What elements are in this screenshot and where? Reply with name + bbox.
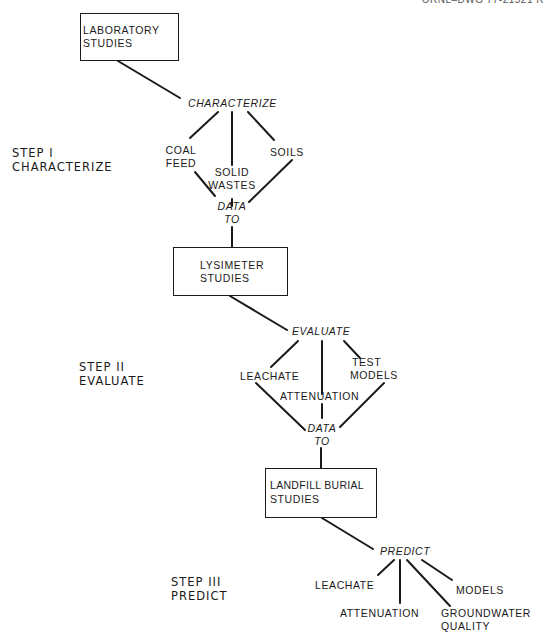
item-test-models: TEST MODELS <box>350 356 398 382</box>
connector-line1: DATA <box>212 200 252 213</box>
connector-line1: DATA <box>302 422 342 435</box>
action-characterize: CHARACTERIZE <box>188 97 277 110</box>
landfill-burial-studies-box: LANDFILL BURIAL STUDIES <box>265 468 377 518</box>
item-attenuation: ATTENUATION <box>280 390 359 403</box>
step-2-number: STEP II <box>79 360 145 374</box>
step-3-title: PREDICT <box>171 589 228 603</box>
box-label-line1: LANDFILL BURIAL <box>270 479 364 492</box>
connector-lines <box>0 0 546 638</box>
step-1-number: STEP I <box>12 146 113 160</box>
item-line2: FEED <box>164 157 198 170</box>
action-predict: PREDICT <box>380 545 430 558</box>
step-3-label: STEP III PREDICT <box>171 575 228 603</box>
box-label-line2: STUDIES <box>200 272 250 285</box>
item-solid-wastes: SOLID WASTES <box>206 166 258 192</box>
step-1-label: STEP I CHARACTERIZE <box>12 146 113 174</box>
item-coal-feed: COAL FEED <box>164 144 198 170</box>
step-1-title: CHARACTERIZE <box>12 160 113 174</box>
connector-line2: TO <box>302 435 342 448</box>
flow-diagram: ORNL–DWG 77-21521 R <box>0 0 546 638</box>
item-soils: SOILS <box>270 146 304 159</box>
data-to-connector-1: DATA TO <box>212 200 252 226</box>
box-label-line1: LYSIMETER <box>200 259 264 272</box>
step-2-title: EVALUATE <box>79 374 145 388</box>
item-line1: COAL <box>164 144 198 157</box>
item-attenuation-predict: ATTENUATION <box>340 607 419 620</box>
step-3-number: STEP III <box>171 575 228 589</box>
connector-line2: TO <box>212 213 252 226</box>
item-groundwater-quality: GROUNDWATER QUALITY <box>441 607 531 633</box>
action-evaluate: EVALUATE <box>292 325 350 338</box>
item-line2: MODELS <box>350 369 398 382</box>
box-label-line2: STUDIES <box>83 37 133 50</box>
box-label-line1: LABORATORY <box>83 24 160 37</box>
item-models-predict: MODELS <box>456 584 504 597</box>
item-line1: SOLID <box>206 166 258 179</box>
item-leachate: LEACHATE <box>240 370 299 383</box>
laboratory-studies-box: LABORATORY STUDIES <box>80 13 179 61</box>
item-line1: TEST <box>350 356 398 369</box>
data-to-connector-2: DATA TO <box>302 422 342 448</box>
lysimeter-studies-box: LYSIMETER STUDIES <box>173 247 288 296</box>
step-2-label: STEP II EVALUATE <box>79 360 145 388</box>
item-line2: WASTES <box>206 179 258 192</box>
item-leachate-predict: LEACHATE <box>315 579 374 592</box>
item-line1: GROUNDWATER <box>441 607 531 620</box>
box-label-line2: STUDIES <box>270 493 320 506</box>
item-line2: QUALITY <box>441 620 531 633</box>
